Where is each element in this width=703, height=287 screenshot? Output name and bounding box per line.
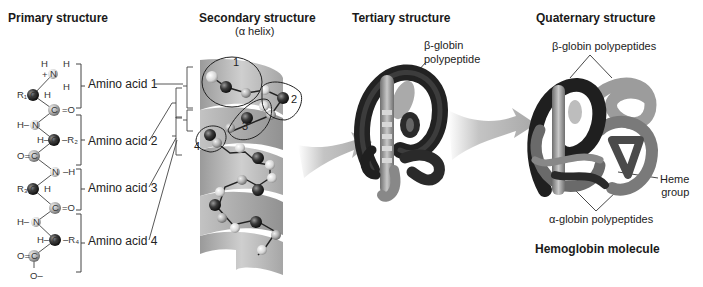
beta-globin-tertiary <box>362 62 440 197</box>
svg-text:H: H <box>41 58 48 69</box>
hemoglobin-quaternary <box>534 55 658 211</box>
svg-text:–R₄: –R₄ <box>63 234 79 245</box>
svg-text:C: C <box>51 134 58 145</box>
arrow-tertiary-to-quaternary <box>448 108 536 160</box>
protein-structure-illustration: H H + N H R₁ C H C =O H– N H– C –R₂ O= C… <box>0 0 703 287</box>
svg-text:O–: O– <box>30 270 43 281</box>
svg-text:C: C <box>30 183 37 194</box>
svg-text:H: H <box>63 81 70 92</box>
svg-text:+: + <box>42 69 48 80</box>
svg-text:C: C <box>31 250 38 261</box>
svg-text:C: C <box>30 89 37 100</box>
svg-text:R₃: R₃ <box>17 183 28 194</box>
svg-text:H–: H– <box>37 134 50 145</box>
svg-text:=O: =O <box>62 202 75 213</box>
svg-text:4: 4 <box>194 140 200 152</box>
svg-text:3: 3 <box>242 120 248 132</box>
atom-labels: H H + N H R₁ C H C =O H– N H– C –R₂ O= C… <box>17 58 79 281</box>
svg-text:C: C <box>31 150 38 161</box>
connector-lines <box>149 67 193 240</box>
svg-text:–H: –H <box>63 166 75 177</box>
svg-text:N: N <box>52 166 59 177</box>
svg-text:N: N <box>32 119 39 130</box>
svg-text:C: C <box>52 234 59 245</box>
svg-text:2: 2 <box>291 93 297 105</box>
svg-text:H: H <box>44 89 51 100</box>
svg-text:1: 1 <box>233 56 239 68</box>
svg-text:=O: =O <box>62 104 75 115</box>
svg-text:N: N <box>50 68 57 79</box>
svg-text:O=: O= <box>17 150 30 161</box>
svg-text:C: C <box>52 202 59 213</box>
svg-text:H: H <box>44 183 51 194</box>
svg-text:H–: H– <box>17 216 30 227</box>
svg-text:O=: O= <box>17 250 30 261</box>
svg-text:R₁: R₁ <box>17 89 27 100</box>
svg-text:–R₂: –R₂ <box>62 134 78 145</box>
svg-text:H–: H– <box>37 234 50 245</box>
svg-text:C: C <box>51 104 58 115</box>
svg-text:N: N <box>33 216 40 227</box>
svg-text:H: H <box>63 58 70 69</box>
svg-text:H–: H– <box>17 119 30 130</box>
